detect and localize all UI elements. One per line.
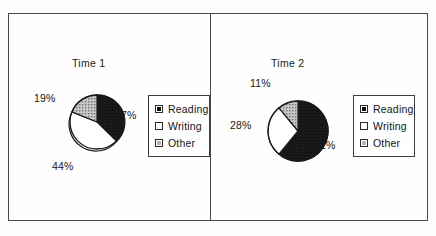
legend-time-1: Reading Writing Other xyxy=(148,95,210,157)
panel-time-2: Time 2 11% 28% 61% xyxy=(211,13,428,221)
pie-chart-time-2 xyxy=(259,92,337,170)
legend-item-reading: Reading xyxy=(360,102,407,116)
pie-label-reading-time-2: 61% xyxy=(314,139,336,151)
legend-label-reading: Reading xyxy=(168,103,209,115)
pie-label-writing-time-1: 44% xyxy=(52,160,74,172)
legend-time-2: Reading Writing Other xyxy=(353,95,415,157)
legend-label-reading: Reading xyxy=(373,103,414,115)
legend-item-other: Other xyxy=(155,136,202,150)
legend-item-other: Other xyxy=(360,136,407,150)
gray-square-icon xyxy=(155,139,163,147)
legend-label-writing: Writing xyxy=(373,120,407,132)
chart-title-time-1: Time 1 xyxy=(72,57,106,69)
pie-label-reading-time-1: 37% xyxy=(115,109,137,121)
white-square-icon xyxy=(360,122,368,130)
legend-label-writing: Writing xyxy=(168,120,202,132)
legend-label-other: Other xyxy=(373,137,400,149)
pie-label-other-time-2: 11% xyxy=(250,77,271,89)
pie-label-other-time-1: 19% xyxy=(34,92,56,104)
black-square-icon xyxy=(155,105,163,113)
panel-time-1: Time 1 19% 37% 44% xyxy=(8,13,211,221)
black-square-icon xyxy=(360,105,368,113)
legend-item-writing: Writing xyxy=(155,119,202,133)
white-square-icon xyxy=(155,122,163,130)
legend-item-writing: Writing xyxy=(360,119,407,133)
pie-chart-figure: Time 1 19% 37% 44% xyxy=(0,0,436,236)
pie-chart-time-1 xyxy=(61,86,133,158)
gray-square-icon xyxy=(360,139,368,147)
pie-label-writing-time-2: 28% xyxy=(230,119,252,131)
chart-title-time-2: Time 2 xyxy=(271,57,305,69)
legend-item-reading: Reading xyxy=(155,102,202,116)
legend-label-other: Other xyxy=(168,137,195,149)
